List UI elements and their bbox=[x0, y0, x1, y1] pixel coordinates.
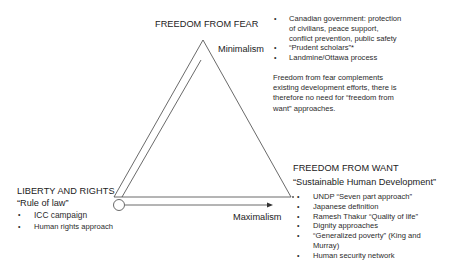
list-item: •Ramesh Thakur “Quality of life” bbox=[297, 212, 421, 222]
right-vertex-dot bbox=[292, 196, 294, 198]
bullet-icon: • bbox=[297, 231, 299, 241]
bullet-icon: • bbox=[274, 14, 276, 24]
list-item: •Dignity approaches bbox=[297, 221, 421, 231]
sustainable-human-development-subtitle: “Sustainable Human Development” bbox=[293, 177, 436, 187]
liberty-and-rights-list: •ICC campaign •Human rights approach bbox=[18, 209, 113, 233]
origin-circle bbox=[114, 200, 125, 211]
triangle-right-edge bbox=[203, 40, 291, 197]
maximalism-arrow-head bbox=[267, 203, 273, 208]
bullet-icon: • bbox=[297, 251, 299, 261]
triangle-left-edge-inner bbox=[122, 60, 201, 197]
liberty-and-rights-title: LIBERTY AND RIGHTS bbox=[17, 186, 115, 196]
freedom-from-want-list: •UNDP “Seven part approach” •Japanese de… bbox=[297, 192, 421, 261]
list-item: conflict prevention, public safety bbox=[274, 34, 401, 44]
list-item: •UNDP “Seven part approach” bbox=[297, 192, 421, 202]
freedom-from-want-title: FREEDOM FROM WANT bbox=[293, 163, 399, 173]
bullet-icon: • bbox=[18, 209, 20, 221]
minimalism-label: Minimalism bbox=[218, 44, 264, 54]
bullet-icon: • bbox=[297, 212, 299, 222]
bullet-icon: • bbox=[297, 192, 299, 202]
list-item: •“Generalized poverty” (King and bbox=[297, 231, 421, 241]
list-item: •“Prudent scholars”* bbox=[274, 43, 401, 53]
list-item: Murray) bbox=[297, 241, 421, 251]
maximalism-label: Maximalism bbox=[233, 212, 282, 222]
list-item: •Landmine/Ottawa process bbox=[274, 53, 401, 63]
bullet-icon: • bbox=[274, 43, 276, 53]
list-item: •Japanese definition bbox=[297, 202, 421, 212]
bullet-icon: • bbox=[297, 202, 299, 212]
bullet-icon: • bbox=[297, 221, 299, 231]
rule-of-law-subtitle: “Rule of law” bbox=[17, 198, 69, 208]
list-item: •Canadian government: protection bbox=[274, 14, 401, 24]
list-item: •ICC campaign bbox=[18, 209, 113, 221]
list-item: of civilians, peace support, bbox=[274, 24, 401, 34]
freedom-from-fear-note: Freedom from fear complements existing d… bbox=[273, 73, 403, 114]
bullet-icon: • bbox=[274, 53, 276, 63]
list-item: •Human rights approach bbox=[18, 221, 113, 233]
triangle-left-edge-outer bbox=[114, 40, 203, 197]
list-item: •Human security network bbox=[297, 251, 421, 261]
freedom-from-fear-title: FREEDOM FROM FEAR bbox=[155, 19, 258, 29]
bullet-icon: • bbox=[18, 221, 20, 233]
freedom-from-fear-list: •Canadian government: protection of civi… bbox=[274, 14, 401, 63]
